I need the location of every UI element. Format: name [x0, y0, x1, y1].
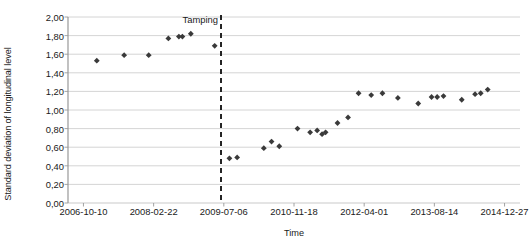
data-point	[146, 52, 152, 58]
data-point	[165, 35, 171, 41]
data-point	[472, 91, 478, 97]
data-point	[261, 145, 267, 151]
data-point	[459, 97, 465, 103]
data-point	[121, 52, 127, 58]
data-point	[94, 58, 100, 64]
plot-area	[68, 17, 520, 203]
x-tick-label: 2006-10-10	[59, 206, 107, 217]
y-axis-title: Standard deviation of longitudinal level	[0, 0, 16, 248]
data-point	[276, 143, 282, 149]
tamping-label: Tamping	[183, 14, 221, 25]
plot-svg	[68, 17, 520, 203]
data-point	[415, 101, 421, 107]
data-point	[227, 155, 233, 161]
x-tick-label: 2013-08-14	[410, 206, 458, 217]
data-point	[434, 94, 440, 100]
data-point	[269, 139, 275, 145]
data-point	[368, 92, 374, 98]
data-point	[180, 34, 186, 40]
x-tick-label: 2012-04-01	[340, 206, 388, 217]
data-point	[395, 95, 401, 101]
data-point	[429, 94, 435, 100]
data-point	[441, 93, 447, 99]
x-axis-title: Time	[68, 228, 520, 238]
x-tick-label: 2014-12-27	[481, 206, 529, 217]
data-point	[212, 43, 218, 49]
x-tick-label: 2008-02-22	[130, 206, 178, 217]
x-axis-tick-labels: 2006-10-102008-02-222009-07-062010-11-18…	[68, 206, 520, 222]
data-point	[345, 115, 351, 121]
data-point	[307, 129, 313, 135]
data-point	[234, 155, 240, 161]
data-point	[335, 120, 341, 126]
x-tick-label: 2009-07-06	[200, 206, 248, 217]
data-point	[295, 126, 301, 132]
x-tick-label: 2010-11-18	[270, 206, 317, 217]
